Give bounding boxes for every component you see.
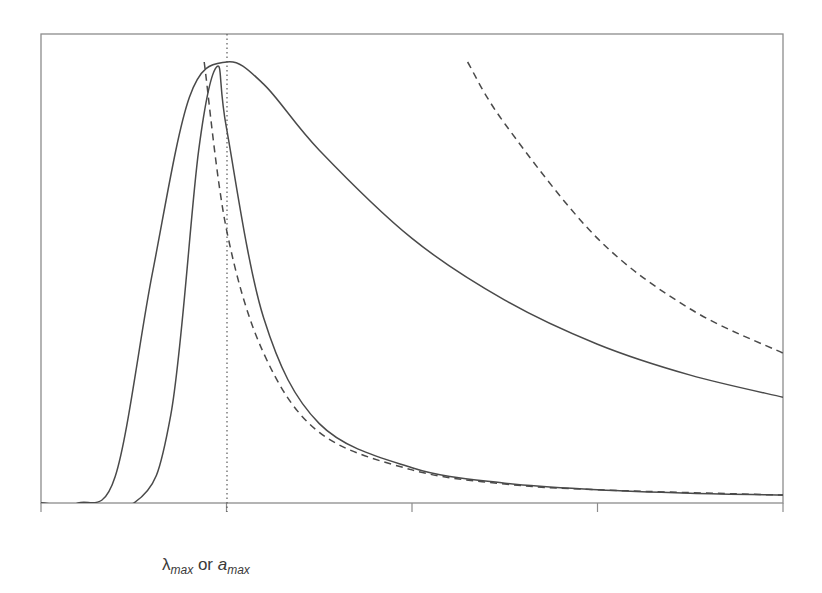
solid-curve-1 <box>41 66 783 510</box>
a-subscript: max <box>227 563 250 577</box>
x-axis-label: λmax or amax <box>162 555 250 577</box>
lambda-symbol: λ <box>162 555 171 574</box>
lambda-subscript: max <box>171 563 194 577</box>
label-connector: or <box>193 555 218 574</box>
solid-curve-0 <box>41 62 783 505</box>
plot-border <box>41 34 783 503</box>
a-symbol: a <box>218 555 227 574</box>
x-axis-ticks <box>41 503 783 512</box>
curves <box>41 62 783 510</box>
chart <box>0 0 822 593</box>
dashed-curve-2 <box>204 62 783 495</box>
dashed-curve-3 <box>468 62 783 353</box>
